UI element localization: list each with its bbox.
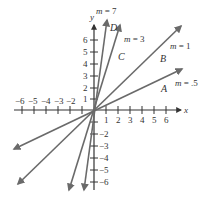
svg-text:−5: −5 xyxy=(99,165,109,175)
slope-chart: −6 −5 −4 −3 −2 1 2 3 4 5 6 6 5 4 3 2 1 −… xyxy=(0,0,206,206)
label-D: D xyxy=(109,22,118,33)
svg-text:4: 4 xyxy=(140,115,145,125)
slope-label-D: m = 7 xyxy=(96,6,117,16)
svg-text:3: 3 xyxy=(83,71,88,81)
label-B: B xyxy=(160,53,166,64)
y-axis-label: y xyxy=(89,12,94,22)
svg-text:6: 6 xyxy=(164,115,169,125)
svg-text:−4: −4 xyxy=(99,153,109,163)
svg-text:5: 5 xyxy=(83,47,88,57)
svg-text:−5: −5 xyxy=(28,96,38,106)
slope-label-B: m = 1 xyxy=(170,41,191,51)
svg-text:1: 1 xyxy=(83,94,88,104)
svg-text:−2: −2 xyxy=(99,129,109,139)
svg-text:−2: −2 xyxy=(66,96,76,106)
svg-text:−4: −4 xyxy=(41,96,51,106)
svg-text:2: 2 xyxy=(116,115,121,125)
svg-text:−6: −6 xyxy=(15,96,25,106)
label-A: A xyxy=(160,83,168,94)
svg-text:5: 5 xyxy=(152,115,157,125)
slope-label-C: m = 3 xyxy=(124,34,145,44)
svg-text:2: 2 xyxy=(83,83,88,93)
svg-text:−3: −3 xyxy=(54,96,64,106)
svg-text:−3: −3 xyxy=(99,141,109,151)
svg-text:3: 3 xyxy=(128,115,133,125)
x-axis-label: x xyxy=(183,105,188,115)
svg-text:−6: −6 xyxy=(99,177,109,187)
slope-label-A: m = .5 xyxy=(175,78,198,88)
label-C: C xyxy=(118,51,125,62)
svg-text:4: 4 xyxy=(83,59,88,69)
svg-text:1: 1 xyxy=(104,115,109,125)
svg-text:6: 6 xyxy=(83,35,88,45)
